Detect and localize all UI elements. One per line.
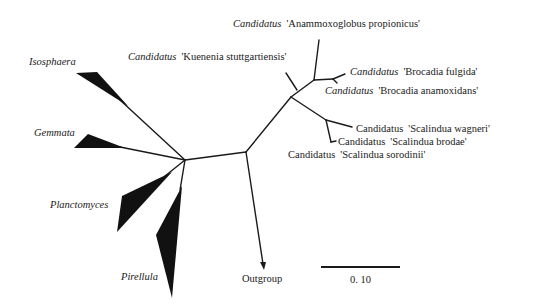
branch-hub-to-hub [185,152,246,160]
label-brocadia-fulgida: Candidatus'Brocadia fulgida' [350,67,478,78]
label-species: 'Anammoxoglobus propionicus' [286,18,420,29]
label-species: 'Brocadia anamoxidans' [378,85,478,96]
label-brocadia-anamoxidans: Candidatus'Brocadia anamoxidans' [325,86,478,97]
branch-scalindua-brodae [331,141,336,142]
label-species: 'Kuenenia stuttgartiensis' [181,51,286,62]
branch-brocadia-anamoxidans [333,79,337,83]
branch-planctomyces [165,160,185,176]
label-species: 'Brocadia fulgida' [403,66,477,77]
label-genus-prefix: Candidatus [128,51,176,62]
label-isosphaera: Isosphaera [29,57,76,68]
branch-pirellula [180,160,185,190]
label-outgroup: Outgroup [242,274,282,285]
clade-wedge-gemmata [74,134,125,148]
branch-scalindua [291,97,326,120]
branch-anammoxoglobus [314,40,319,80]
label-genus-prefix: Candidatus [325,85,373,96]
branch-isosphaera [120,100,185,160]
clade-wedge-isosphaera [76,72,128,106]
label-pirellula: Pirellula [121,272,158,283]
branch-gemmata [120,147,185,160]
label-genus-prefix: Candidatus [233,18,281,29]
scale-bar-label: 0. 10 [350,275,371,286]
branch-upper-node [291,80,314,97]
label-genus-prefix: Candidatus [350,66,398,77]
phylogenetic-tree [0,0,534,306]
label-anammoxoglobus: Candidatus'Anammoxoglobus propionicus' [233,19,420,30]
label-scalindua-brodae: Candidatus'Scalindua brodae' [338,137,467,148]
label-gemmata: Gemmata [34,128,75,139]
label-species: 'Scalindua wagneri' [408,123,490,134]
branch-kuenenia [286,73,297,90]
branch-scalindua-inner [326,120,331,142]
label-scalindua-wagneri: Candidatus'Scalindua wagneri' [356,124,490,135]
branch-outgroup [246,152,263,264]
branch-scalindua-wagneri [326,120,352,127]
label-species: 'Scalindua brodae' [390,136,466,147]
label-scalindua-sorokinii: Candidatus'Scalindua sorodinii' [288,150,425,161]
outgroup-arrowhead-icon [260,262,266,270]
label-kuenenia: Candidatus'Kuenenia stuttgartiensis' [128,52,286,63]
branch-brocadia [314,79,333,80]
branch-to-anammox-clade [246,97,291,152]
label-planctomyces: Planctomyces [50,200,108,211]
branch-brocadia-fulgida [333,74,345,79]
label-species: 'Scalindua sorodinii' [340,149,425,160]
label-genus-prefix: Candidatus [356,123,403,134]
clade-wedge-pirellula [156,186,182,298]
label-genus-prefix: Candidatus [288,149,335,160]
label-genus-prefix: Candidatus [338,136,385,147]
